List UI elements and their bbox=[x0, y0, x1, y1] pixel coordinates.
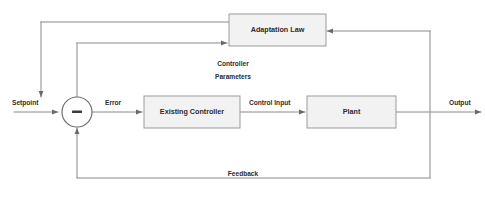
existing-controller-label: Existing Controller bbox=[160, 107, 224, 116]
signal-label-controller-parameters-line2: Parameters bbox=[215, 73, 251, 80]
signal-label-controller-parameters-line1: Controller bbox=[217, 60, 249, 67]
signal-label-control-input: Control Input bbox=[249, 99, 291, 107]
minus-sign-icon bbox=[72, 111, 82, 113]
signal-label-output: Output bbox=[449, 99, 471, 107]
signal-label-setpoint: Setpoint bbox=[12, 99, 39, 107]
block-adaptation-law[interactable]: Adaptation Law bbox=[229, 14, 326, 46]
block-plant[interactable]: Plant bbox=[307, 96, 396, 128]
block-existing-controller[interactable]: Existing Controller bbox=[144, 96, 240, 128]
signal-label-feedback: Feedback bbox=[228, 170, 259, 177]
adaptation-law-label: Adaptation Law bbox=[251, 25, 305, 34]
summing-junction[interactable] bbox=[62, 97, 92, 127]
block-diagram-svg: Adaptation Law Existing Controller Plant… bbox=[0, 0, 485, 201]
signal-label-error: Error bbox=[105, 99, 122, 106]
block-diagram-canvas: Adaptation Law Existing Controller Plant… bbox=[0, 0, 485, 201]
plant-label: Plant bbox=[343, 107, 361, 116]
